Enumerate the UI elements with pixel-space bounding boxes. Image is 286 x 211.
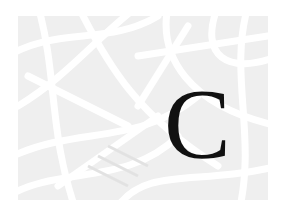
texture-panel: C <box>18 16 268 200</box>
drop-cap-letter: C <box>164 74 231 174</box>
